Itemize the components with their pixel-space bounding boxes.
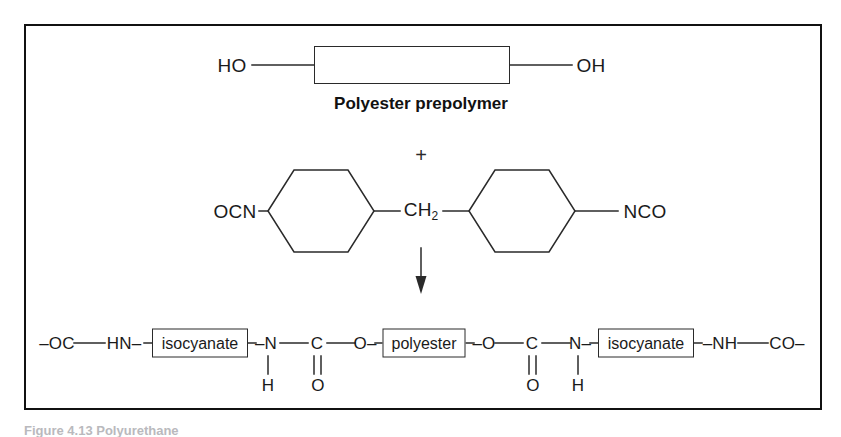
chain-node-c-right: C	[526, 335, 538, 352]
chain-node-o-left: O–	[353, 335, 376, 352]
chain-node-n-left: –N	[255, 335, 277, 352]
figure-caption: Figure 4.13 Polyurethane	[24, 424, 724, 437]
chain-box-isocyanate-left: isocyanate	[152, 329, 248, 358]
figure-caption-text: Figure 4.13 Polyurethane	[24, 424, 724, 437]
plus-operator: +	[415, 144, 427, 167]
terminal-group-ho: HO	[218, 56, 247, 75]
bridge-text: CH	[404, 199, 432, 220]
chain-box-polyester: polyester	[383, 329, 466, 358]
chain-node-o-right: –O	[472, 335, 495, 352]
reaction-arrow-head	[416, 276, 427, 294]
chain-node-oc-start: –OC	[39, 335, 75, 352]
figure-page: HO OH Polyester prepolymer + OCN NCO CH2…	[0, 0, 841, 437]
chain-box-isocyanate-right: isocyanate	[598, 329, 694, 358]
cyclohexane-ring-left	[268, 170, 374, 252]
chain-node-nh-right: –NH	[703, 335, 738, 352]
polyester-prepolymer-box	[314, 46, 510, 84]
terminal-group-oh: OH	[577, 56, 606, 75]
chain-node-hn-left: HN–	[107, 335, 142, 352]
terminal-group-nco: NCO	[624, 202, 667, 221]
chain-node-c-left: C	[311, 335, 323, 352]
pendant-atom-o-left: O	[311, 377, 324, 394]
pendant-atom-h-left: H	[262, 377, 274, 394]
pendant-atom-h-right: H	[572, 377, 584, 394]
methylene-bridge-label: CH2	[404, 200, 439, 221]
polyester-prepolymer-label: Polyester prepolymer	[334, 94, 508, 114]
chain-node-co-end: CO–	[769, 335, 805, 352]
pendant-atom-o-right: O	[526, 377, 539, 394]
cyclohexane-ring-right	[469, 170, 575, 252]
terminal-group-ocn: OCN	[214, 202, 257, 221]
bridge-subscript: 2	[432, 209, 439, 223]
chain-node-n-right: N–	[569, 335, 591, 352]
